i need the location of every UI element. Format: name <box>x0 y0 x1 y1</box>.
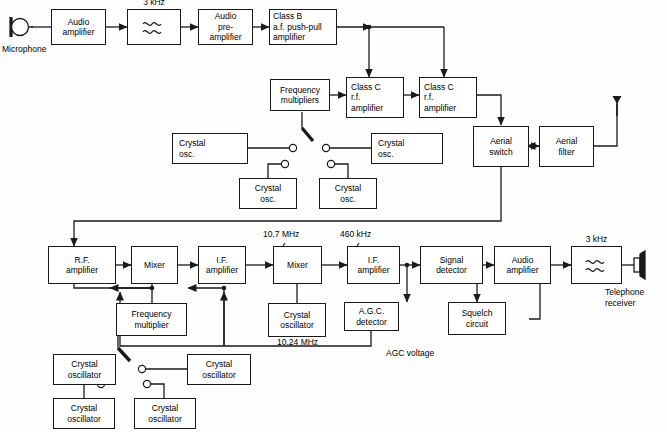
block-line: detector <box>436 265 467 276</box>
block-line: Audio <box>68 17 90 28</box>
block-line: filter <box>558 147 574 158</box>
block-line: Aerial <box>490 136 512 147</box>
block-af-filter-tx[interactable] <box>127 9 181 45</box>
block-rx-crystal-osc-1[interactable]: Crystal oscillator <box>53 354 116 385</box>
block-tx-crystal-osc-4[interactable]: Crystal osc. <box>371 133 443 164</box>
label-agc-voltage: AGC voltage <box>386 348 434 359</box>
block-line: Crystal <box>255 183 281 194</box>
block-line: Class B <box>273 11 302 22</box>
block-audio-pre-amplifier[interactable]: Audio pre- amplifier <box>198 9 253 45</box>
block-line: I.F. <box>216 255 227 266</box>
block-line: Crystal <box>206 359 232 370</box>
block-crystal-oscillator-local[interactable]: Crystal oscillator <box>268 303 326 337</box>
block-line: A.G.C. <box>359 306 385 317</box>
block-if-amplifier-1[interactable]: I.F. amplifier <box>198 246 246 284</box>
block-aerial-switch[interactable]: Aerial switch <box>473 126 529 167</box>
block-line: Signal <box>440 255 464 266</box>
block-line: detector <box>356 317 387 328</box>
label-telephone-receiver-line2: receiver <box>605 298 635 309</box>
block-line: circuit <box>466 319 488 330</box>
label-microphone: Microphone <box>2 44 46 55</box>
label-tx-filter-bandwidth: 3 kHz <box>127 0 181 8</box>
block-line: oscillator <box>202 370 236 381</box>
label-telephone-receiver-line1: Telephone <box>605 287 644 298</box>
block-line: Audio <box>512 255 534 266</box>
sine-filter-icon <box>140 17 168 37</box>
block-line: Squelch <box>462 308 493 319</box>
block-frequency-multipliers[interactable]: Frequency multipliers <box>270 79 330 111</box>
block-aerial-filter[interactable]: Aerial filter <box>539 126 594 167</box>
block-line: Crystal <box>179 138 205 149</box>
label-local-oscillator-frequency: 10.24 MHz <box>277 337 318 348</box>
block-line: amplifier <box>209 32 241 43</box>
block-rf-amplifier[interactable]: R.F. amplifier <box>48 246 116 284</box>
block-line: I.F. <box>368 255 379 266</box>
block-line: Crystal <box>378 138 404 149</box>
block-line: a.f. push-pull <box>273 22 322 33</box>
block-line: r.f. <box>424 92 433 103</box>
block-line: amplifier <box>206 265 238 276</box>
block-class-b-af-push-pull-amplifier[interactable]: Class B a.f. push-pull amplifier <box>269 9 337 45</box>
block-diagram-canvas: Audio amplifier Audio pre- amplifier Cla… <box>0 0 667 432</box>
block-line: multipliers <box>281 95 319 106</box>
block-audio-amplifier-rx[interactable]: Audio amplifier <box>494 246 551 284</box>
block-tx-crystal-osc-3[interactable]: Crystal osc. <box>319 178 377 209</box>
block-line: Mixer <box>287 260 308 271</box>
block-line: Class C <box>351 82 381 93</box>
block-line: R.F. <box>74 255 89 266</box>
block-line: switch <box>489 147 513 158</box>
block-audio-amplifier-tx[interactable]: Audio amplifier <box>51 9 106 45</box>
block-line: amplifier <box>506 265 538 276</box>
block-line: pre- <box>218 22 233 33</box>
block-line: Aerial <box>556 136 578 147</box>
block-line: multiplier <box>134 320 168 331</box>
microphone-icon <box>6 14 34 40</box>
label-second-if-frequency: 460 kHz <box>340 229 371 240</box>
block-rx-crystal-osc-4[interactable]: Crystal oscillator <box>187 354 251 385</box>
block-line: Mixer <box>144 260 165 271</box>
block-line: amplifier <box>62 27 94 38</box>
block-line: Frequency <box>280 85 320 96</box>
block-tx-crystal-osc-2[interactable]: Crystal osc. <box>239 178 297 209</box>
block-line: Crystal <box>71 359 97 370</box>
block-line: Frequency <box>131 309 171 320</box>
block-line: amplifier <box>357 265 389 276</box>
antenna-icon <box>608 96 628 118</box>
block-line: amplifier <box>424 103 456 114</box>
block-af-filter-rx[interactable] <box>571 246 622 284</box>
label-rx-filter-bandwidth: 3 kHz <box>571 234 622 245</box>
block-line: Crystal <box>71 403 97 414</box>
block-line: oscillator <box>67 414 101 425</box>
block-line: osc. <box>179 149 195 160</box>
block-line: amplifier <box>351 103 383 114</box>
block-line: oscillator <box>280 320 314 331</box>
block-line: r.f. <box>351 92 360 103</box>
block-squelch-circuit[interactable]: Squelch circuit <box>448 302 506 335</box>
telephone-receiver-icon <box>632 250 652 280</box>
label-first-if-frequency: 10.7 MHz <box>263 229 299 240</box>
block-tx-crystal-osc-1[interactable]: Crystal osc. <box>172 133 248 164</box>
block-line: amplifier <box>273 32 305 43</box>
block-line: Crystal <box>335 183 361 194</box>
block-rx-crystal-osc-2[interactable]: Crystal oscillator <box>53 398 115 429</box>
block-mixer-1[interactable]: Mixer <box>131 246 178 284</box>
block-line: oscillator <box>68 370 102 381</box>
block-line: osc. <box>340 194 356 205</box>
block-line: Audio <box>215 11 237 22</box>
block-if-amplifier-2[interactable]: I.F. amplifier <box>347 246 400 284</box>
block-line: Crystal <box>152 403 178 414</box>
block-class-c-rf-amplifier-1[interactable]: Class C r.f. amplifier <box>346 77 404 118</box>
block-line: Class C <box>424 82 454 93</box>
block-line: osc. <box>260 194 276 205</box>
block-line: oscillator <box>148 414 182 425</box>
block-agc-detector[interactable]: A.G.C. detector <box>344 302 399 331</box>
block-class-c-rf-amplifier-2[interactable]: Class C r.f. amplifier <box>419 77 477 118</box>
block-line: osc. <box>378 149 394 160</box>
block-line: Crystal <box>284 310 310 321</box>
block-rx-crystal-osc-3[interactable]: Crystal oscillator <box>134 398 196 429</box>
block-signal-detector[interactable]: Signal detector <box>420 246 483 284</box>
sine-filter-icon <box>583 255 611 275</box>
block-mixer-2[interactable]: Mixer <box>273 246 322 284</box>
block-line: amplifier <box>66 265 98 276</box>
block-frequency-multiplier[interactable]: Frequency multiplier <box>116 303 187 336</box>
